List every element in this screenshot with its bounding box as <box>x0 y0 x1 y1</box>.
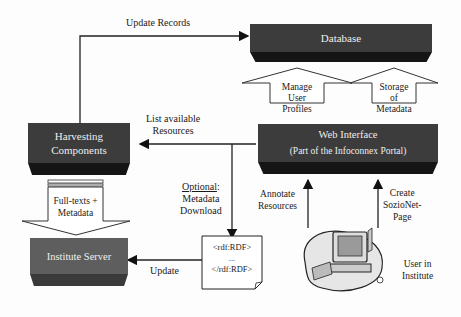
database-node: Database <box>250 24 432 62</box>
computer-user-icon <box>304 228 383 291</box>
rdf-document: <rdf:RDF> ... </rdf:RDF> <box>204 240 260 276</box>
update-label: Update <box>150 265 179 277</box>
user-in-institute-label: User in Institute <box>402 258 433 282</box>
update-records-label: Update Records <box>126 17 190 29</box>
annotate-resources-label: Annotate Resources <box>258 188 297 212</box>
list-resources-label: List available Resources <box>146 113 200 137</box>
create-page-label: Create SozioNet- Page <box>383 187 422 223</box>
storage-metadata-arrow-label: Storage of Metadata <box>372 82 416 115</box>
web-interface-node: Web Interface (Part of the Infoconnex Po… <box>258 124 438 174</box>
fulltexts-arrow-label: Full-texts + Metadata <box>48 195 103 219</box>
optional-download-label: Optional: Metadata Download <box>180 181 222 217</box>
architecture-diagram: Database Harvesting Components Web Inter… <box>0 0 461 317</box>
institute-server-node: Institute Server <box>30 238 128 286</box>
manage-profiles-arrow-label: Manage User Profiles <box>272 82 322 115</box>
harvesting-components-node: Harvesting Components <box>28 123 130 175</box>
